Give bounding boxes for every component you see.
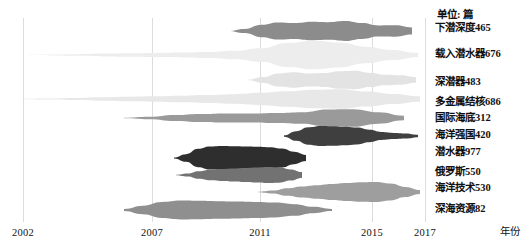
stream-载入潜水器[interactable] xyxy=(26,41,418,70)
stream-潜水器[interactable] xyxy=(174,146,306,170)
stream-graph-svg xyxy=(0,0,432,246)
stream-多金属结核[interactable] xyxy=(22,89,420,108)
x-tick-2017: 2017 xyxy=(414,227,436,238)
legend-item-载入潜水器[interactable]: 载入潜水器676 xyxy=(435,48,501,59)
legend-item-多金属结核[interactable]: 多金属结核686 xyxy=(435,96,501,107)
stream-深海资源[interactable] xyxy=(124,201,332,220)
legend-item-俄罗斯[interactable]: 俄罗斯550 xyxy=(435,166,481,177)
legend-item-下潜深度[interactable]: 下潜深度465 xyxy=(435,22,491,33)
x-tick-2011: 2011 xyxy=(249,227,270,238)
legend-item-潜水器[interactable]: 潜水器977 xyxy=(435,146,481,157)
legend-item-国际海底[interactable]: 国际海底312 xyxy=(435,112,491,123)
x-axis-title: 年份 xyxy=(500,223,520,238)
plot-area xyxy=(0,0,432,246)
stream-下潜深度[interactable] xyxy=(228,21,412,41)
legend-item-深海资源[interactable]: 深海资源82 xyxy=(435,203,486,214)
stream-俄罗斯[interactable] xyxy=(176,167,302,183)
legend-item-深潜器[interactable]: 深潜器483 xyxy=(435,76,481,87)
stream-国际海底[interactable] xyxy=(124,109,404,127)
themeriver-chart: 单位: 篇 下潜深度465载入潜水器676深潜器483多金属结核686国际海底3… xyxy=(0,0,524,246)
unit-label: 单位: 篇 xyxy=(437,6,473,21)
legend: 单位: 篇 下潜深度465载入潜水器676深潜器483多金属结核686国际海底3… xyxy=(432,0,524,246)
x-tick-2015: 2015 xyxy=(361,227,383,238)
legend-item-海洋技术[interactable]: 海洋技术530 xyxy=(435,182,491,193)
stream-深潜器[interactable] xyxy=(248,71,416,89)
x-tick-2007: 2007 xyxy=(141,227,163,238)
stream-海洋技术[interactable] xyxy=(258,182,420,202)
stream-海洋强国[interactable] xyxy=(284,126,418,146)
legend-item-海洋强国[interactable]: 海洋强国420 xyxy=(435,129,491,140)
x-tick-2002: 2002 xyxy=(12,227,34,238)
